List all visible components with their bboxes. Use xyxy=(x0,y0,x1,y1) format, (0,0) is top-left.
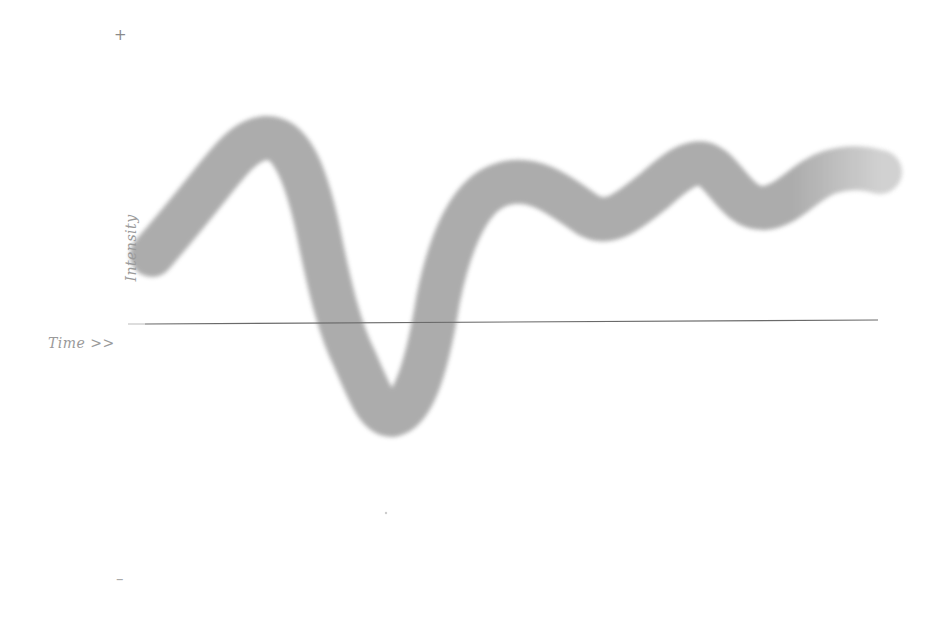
y-axis-negative-marker: – xyxy=(116,570,124,588)
x-axis-label: Time >> xyxy=(48,335,115,351)
x-axis xyxy=(145,320,878,324)
intensity-time-chart: + – Time >> Intensity xyxy=(0,0,934,620)
y-axis-label: Intensity xyxy=(123,203,139,293)
y-axis-positive-marker: + xyxy=(114,26,127,44)
stray-mark xyxy=(385,512,387,514)
intensity-curve xyxy=(152,138,880,415)
chart-canvas xyxy=(0,0,934,620)
